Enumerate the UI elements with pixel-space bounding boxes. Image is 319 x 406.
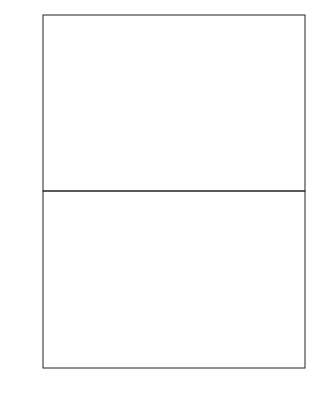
top-panel-frame xyxy=(43,15,305,191)
figure xyxy=(0,0,319,406)
bottom-panel-frame xyxy=(43,191,305,368)
